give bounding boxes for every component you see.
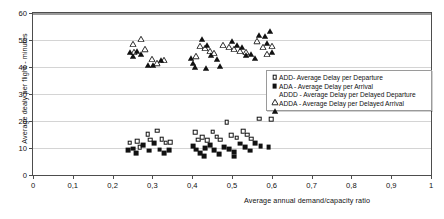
data-point-addd [149, 48, 156, 54]
data-point-add [229, 133, 234, 138]
data-point-adda [134, 40, 141, 46]
data-point-ada [232, 154, 237, 159]
square-open-icon [270, 73, 279, 81]
data-point-adda [229, 30, 236, 36]
data-point-addd [225, 36, 232, 42]
data-point-adda [203, 57, 210, 63]
x-axis-tick-label: 1 [429, 181, 433, 190]
x-axis-title: Average annual demand/capacity ratio [170, 196, 444, 205]
legend-label-add: ADD- Average Delay per Departure [279, 74, 383, 81]
data-point-add [168, 140, 173, 145]
data-point-addd [131, 41, 138, 47]
data-point-adda [130, 45, 137, 51]
data-point-adda [208, 44, 215, 50]
data-point-addd [211, 42, 218, 48]
data-point-ada [141, 143, 146, 148]
square-filled-icon [270, 82, 279, 90]
x-axis-tick [391, 175, 392, 179]
x-axis-tick [312, 175, 313, 179]
y-axis-tick-label: 20 [19, 117, 27, 126]
y-axis-tick [29, 121, 33, 122]
data-point-ada [208, 142, 213, 147]
scatter-chart: Average dealy per flight - minutes 01020… [0, 0, 444, 219]
x-axis-tick [351, 175, 352, 179]
data-point-addd [138, 28, 145, 34]
x-axis-tick-label: 0 [31, 181, 35, 190]
data-point-add [218, 138, 223, 143]
y-axis-tick-label: 0 [23, 171, 27, 180]
chart-legend: ADD- Average Delay per Departure ADA - A… [266, 70, 432, 111]
y-axis-tick-label: 30 [19, 90, 27, 99]
data-point-add [205, 138, 210, 143]
x-axis-tick [73, 175, 74, 179]
legend-label-adda: ADDA - Average Delay per Delayed Arrival [279, 100, 404, 107]
x-axis-tick [232, 175, 233, 179]
data-point-add [196, 138, 201, 143]
data-point-adda [268, 41, 275, 47]
data-point-adda [243, 44, 250, 50]
data-point-ada [134, 150, 139, 155]
data-point-ada [198, 150, 203, 155]
legend-item-add: ADD- Average Delay per Departure [270, 73, 428, 81]
data-point-adda [261, 26, 268, 32]
data-point-adda [199, 28, 206, 34]
x-axis-tick-label: 0,5 [227, 181, 238, 190]
y-gridline [33, 67, 431, 68]
data-point-adda [189, 52, 196, 58]
x-axis-tick-label: 0,3 [147, 181, 158, 190]
data-point-adda [252, 47, 259, 53]
data-point-add [163, 140, 168, 145]
data-point-adda [267, 20, 274, 26]
data-point-add [193, 130, 198, 135]
x-axis-tick [192, 175, 193, 179]
data-point-adda [126, 41, 133, 47]
data-point-add [127, 140, 132, 145]
data-point-adda [188, 47, 195, 53]
legend-item-ada: ADA - Average Delay per Arrival [270, 82, 428, 90]
data-point-addd [253, 30, 260, 36]
data-point-adda [248, 43, 255, 49]
x-axis-tick-label: 0,1 [68, 181, 79, 190]
data-point-addd [129, 33, 136, 39]
x-axis-tick-label: 0,6 [267, 181, 278, 190]
data-point-ada [147, 148, 152, 153]
x-axis-tick [33, 175, 34, 179]
data-point-adda [145, 54, 152, 60]
x-axis-tick-label: 0,8 [346, 181, 357, 190]
data-point-add [211, 130, 216, 135]
data-point-addd [161, 49, 168, 55]
data-point-ada [162, 151, 167, 156]
data-point-ada [248, 148, 253, 153]
legend-label-addd: ADDD - Average Delay per Delayed Departu… [279, 91, 416, 98]
data-point-add [249, 137, 254, 142]
y-axis-tick-label: 60 [19, 9, 27, 18]
data-point-adda [217, 55, 224, 61]
data-point-addd [264, 43, 271, 49]
data-point-adda [150, 54, 157, 60]
data-point-adda [138, 43, 145, 49]
data-point-add [245, 132, 250, 137]
data-point-add [234, 135, 239, 140]
data-point-add [155, 128, 160, 133]
y-axis-tick-label: 10 [19, 144, 27, 153]
data-point-adda [213, 48, 220, 54]
data-point-add [148, 137, 153, 142]
x-axis-tick [272, 175, 273, 179]
data-point-ada [253, 141, 258, 146]
data-point-adda [233, 34, 240, 40]
data-point-add [135, 139, 140, 144]
y-gridline [33, 148, 431, 149]
data-point-addd [242, 41, 249, 47]
y-axis-tick [29, 67, 33, 68]
y-axis-tick [29, 13, 33, 14]
x-axis-tick-label: 0,7 [306, 181, 317, 190]
data-point-addd [220, 34, 227, 40]
triangle-open-icon [270, 91, 279, 99]
data-point-addd [193, 46, 200, 52]
x-axis-tick [113, 175, 114, 179]
data-point-ada [238, 141, 243, 146]
data-point-adda [256, 24, 263, 30]
data-point-ada [217, 152, 222, 157]
x-axis-tick [431, 175, 432, 179]
y-axis-tick-label: 40 [19, 63, 27, 72]
